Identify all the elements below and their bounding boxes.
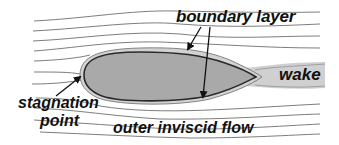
wake-label: wake	[279, 66, 321, 83]
point-label: point	[40, 113, 79, 129]
airfoil-shape	[84, 52, 256, 101]
outer-flow-label: outer inviscid flow	[113, 120, 253, 136]
stagnation-label: stagnation	[18, 95, 99, 111]
arrow-boundary-layer-upper	[188, 27, 201, 49]
airfoil-flow-diagram: boundary layer wake stagnation point out…	[0, 0, 339, 145]
boundary-layer-label: boundary layer	[176, 8, 295, 25]
